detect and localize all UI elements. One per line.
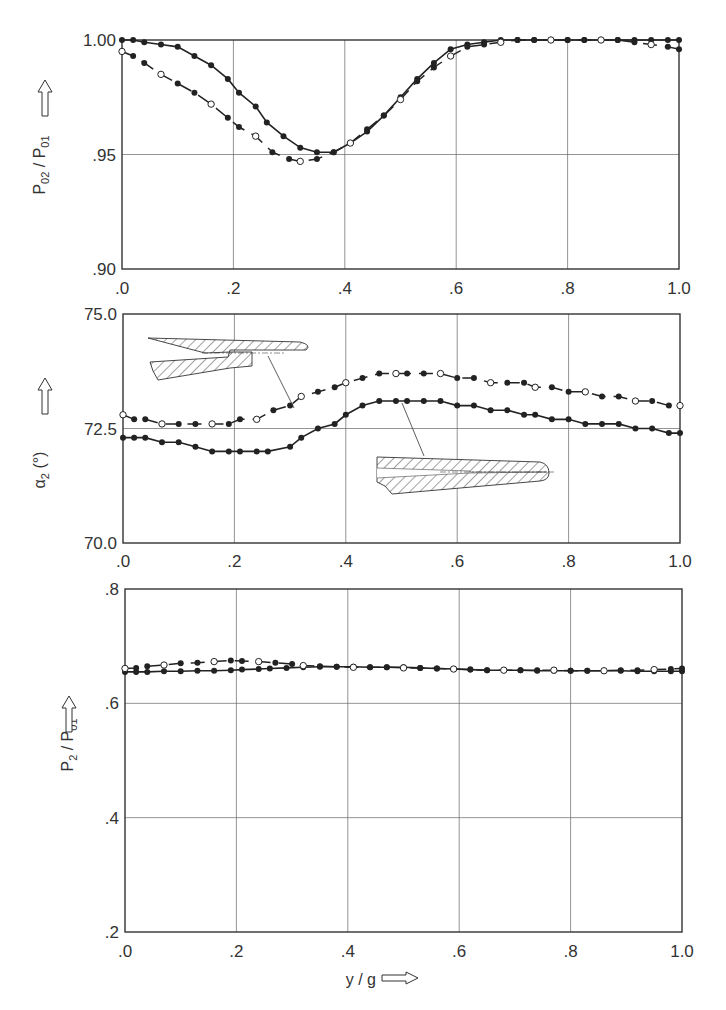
data-point xyxy=(120,435,126,441)
y-tick-label: 75.0 xyxy=(84,305,117,324)
x-tick-label: .8 xyxy=(564,942,578,961)
data-point xyxy=(393,398,399,404)
y-tick-label: 70.0 xyxy=(84,534,117,553)
data-point xyxy=(159,439,165,445)
data-point xyxy=(236,124,242,130)
plot2-ylabel: α2 (°) xyxy=(31,452,51,489)
data-point xyxy=(300,662,306,668)
data-point xyxy=(676,37,682,43)
data-point xyxy=(393,370,399,376)
data-point xyxy=(281,133,287,139)
x-tick-label: .8 xyxy=(562,552,576,571)
data-point xyxy=(297,158,303,164)
data-point xyxy=(144,663,150,669)
data-point xyxy=(448,46,454,52)
data-point xyxy=(192,444,198,450)
data-point xyxy=(501,667,507,673)
data-point xyxy=(417,665,423,671)
data-point xyxy=(618,667,624,673)
data-point xyxy=(498,39,504,45)
plot-static-pressure-ratio: .0.2.4.6.81.0.2.4.6.8 xyxy=(105,580,694,961)
data-point xyxy=(454,375,460,381)
plot-total-pressure-ratio: .0.2.4.6.81.0.90.951.00 xyxy=(83,31,691,298)
data-point xyxy=(225,115,231,121)
data-point xyxy=(532,384,538,390)
data-point xyxy=(582,421,588,427)
x-tick-label: 1.0 xyxy=(670,942,694,961)
y-tick-label: .4 xyxy=(105,809,119,828)
data-point xyxy=(332,384,338,390)
data-point xyxy=(236,90,242,96)
data-point xyxy=(665,37,671,43)
data-point xyxy=(178,668,184,674)
data-point xyxy=(332,421,338,427)
data-point xyxy=(175,81,181,87)
data-point xyxy=(255,658,261,664)
data-point xyxy=(142,435,148,441)
data-point xyxy=(504,380,510,386)
data-point xyxy=(298,393,304,399)
data-point xyxy=(122,665,128,671)
x-axis-label: y / g xyxy=(346,971,376,988)
data-point xyxy=(298,435,304,441)
data-point xyxy=(397,96,403,102)
data-point xyxy=(141,60,147,66)
x-tick-label: 1.0 xyxy=(667,279,691,298)
data-point xyxy=(521,380,527,386)
svg-text:P02 / P01: P02 / P01 xyxy=(31,135,51,194)
data-point xyxy=(677,402,683,408)
data-point xyxy=(598,37,604,43)
y-tick-label: .8 xyxy=(105,580,119,599)
y-tick-label: .2 xyxy=(105,923,119,942)
data-point xyxy=(158,71,164,77)
y-tick-label: 72.5 xyxy=(84,420,117,439)
data-point xyxy=(532,412,538,418)
x-tick-label: .2 xyxy=(226,279,240,298)
data-point xyxy=(211,658,217,664)
data-point xyxy=(119,37,125,43)
data-point xyxy=(161,668,167,674)
data-point xyxy=(133,665,139,671)
data-point xyxy=(404,371,410,377)
data-point xyxy=(191,53,197,59)
data-point xyxy=(270,407,276,413)
data-point xyxy=(315,426,321,432)
data-point xyxy=(601,668,607,674)
data-point xyxy=(384,664,390,670)
series-line-solid xyxy=(123,401,680,451)
data-point xyxy=(228,667,234,673)
data-point xyxy=(130,53,136,59)
data-point xyxy=(450,666,456,672)
data-point xyxy=(568,668,574,674)
data-point xyxy=(176,439,182,445)
x-tick-label: .6 xyxy=(449,279,463,298)
data-point xyxy=(208,62,214,68)
data-point xyxy=(421,371,427,377)
x-tick-label: .6 xyxy=(450,552,464,571)
data-point xyxy=(237,448,243,454)
data-point xyxy=(447,53,453,59)
data-point xyxy=(437,370,443,376)
data-point xyxy=(632,398,638,404)
data-point xyxy=(665,44,671,50)
data-point xyxy=(676,46,682,52)
data-point xyxy=(471,375,477,381)
data-point xyxy=(616,421,622,427)
data-point xyxy=(431,64,437,70)
data-point xyxy=(287,444,293,450)
data-point xyxy=(158,42,164,48)
data-point xyxy=(194,660,200,666)
data-point xyxy=(192,421,198,427)
data-point xyxy=(144,669,150,675)
data-point xyxy=(191,90,197,96)
data-point xyxy=(484,667,490,673)
data-point xyxy=(414,78,420,84)
data-point xyxy=(176,421,182,427)
data-point xyxy=(253,416,259,422)
data-point xyxy=(131,416,137,422)
data-point xyxy=(237,416,243,422)
data-point xyxy=(269,149,275,155)
arrow-right-icon xyxy=(382,972,418,984)
y-tick-label: .6 xyxy=(105,694,119,713)
data-point xyxy=(256,666,262,672)
